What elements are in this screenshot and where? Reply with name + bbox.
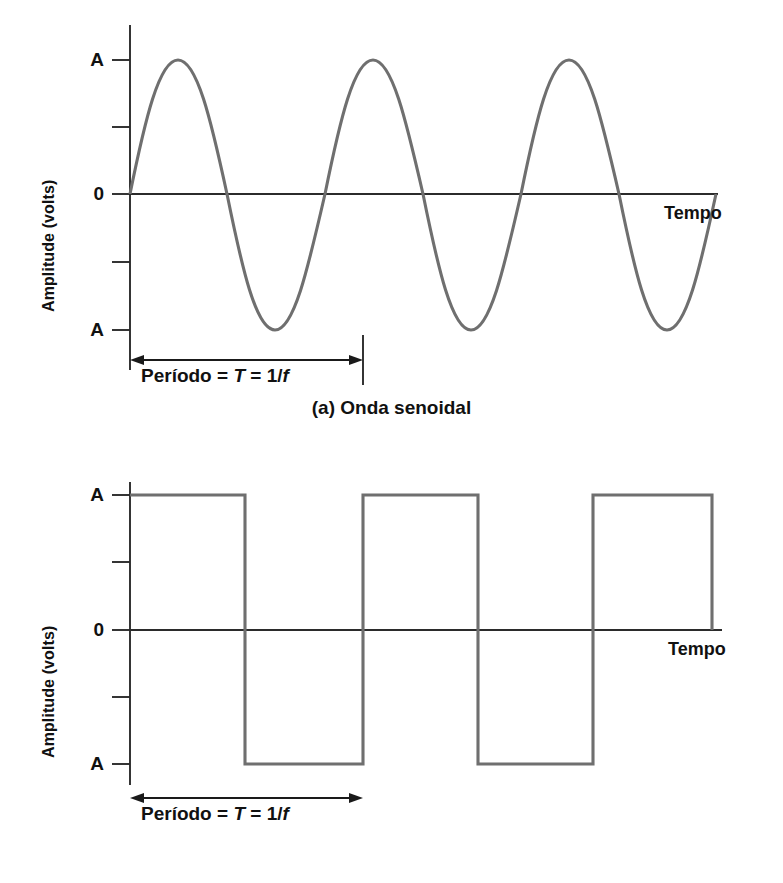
period-prefix: Período = <box>141 365 233 386</box>
period-arrow-head-right <box>349 355 363 365</box>
y-tick-label-top: A <box>78 484 104 506</box>
period-arrow-head-left <box>130 793 144 803</box>
y-tick-label-zero: 0 <box>78 183 104 205</box>
period-symbol-f: f <box>283 803 289 824</box>
period-middle: = 1/ <box>245 803 283 824</box>
y-axis-title: Amplitude (volts) <box>40 626 58 758</box>
period-prefix: Período = <box>141 803 233 824</box>
sine-waveform <box>130 60 716 330</box>
y-axis-title: Amplitude (volts) <box>40 180 58 312</box>
y-tick-label-bottom: A <box>78 319 104 341</box>
x-axis-end-label: Tempo <box>668 639 726 660</box>
y-tick-label-top: A <box>78 49 104 71</box>
y-tick-label-zero: 0 <box>78 619 104 641</box>
period-arrow-head-left <box>130 355 144 365</box>
period-middle: = 1/ <box>245 365 283 386</box>
period-symbol-t: T <box>233 803 245 824</box>
period-annotation-label: Período = T = 1/f <box>141 803 289 825</box>
figure-square-wave: Amplitude (volts) A 0 A Tempo Período = … <box>0 440 783 883</box>
period-annotation-label: Período = T = 1/f <box>141 365 289 387</box>
y-tick-label-bottom: A <box>78 753 104 775</box>
period-symbol-t: T <box>233 365 245 386</box>
square-wave-plot <box>0 440 783 883</box>
figure-caption-sine: (a) Onda senoidal <box>0 397 783 419</box>
period-arrow-head-right <box>349 793 363 803</box>
x-axis-end-label: Tempo <box>664 203 722 224</box>
figure-sine-wave: Amplitude (volts) A 0 A Tempo Período = … <box>0 0 783 440</box>
period-symbol-f: f <box>283 365 289 386</box>
